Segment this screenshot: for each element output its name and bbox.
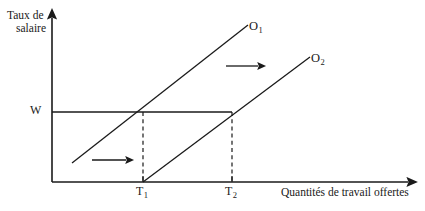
- diagram-canvas: [0, 0, 425, 211]
- curve-label-o2-base: O: [311, 51, 320, 65]
- x-tick-label-t2: T2: [225, 185, 237, 198]
- curve-label-o2: O2: [311, 51, 325, 65]
- y-axis-title-line-1: Taux de: [7, 9, 44, 21]
- supply-curve-o2: [143, 57, 310, 182]
- curve-label-o1: O1: [249, 19, 263, 33]
- x-tick-label-t1: T1: [136, 185, 148, 198]
- x-tick-label-t1-subscript: 1: [143, 190, 148, 200]
- curve-label-o1-base: O: [249, 19, 258, 33]
- y-axis-title: Taux de salaire: [7, 9, 46, 35]
- curve-label-o1-subscript: 1: [258, 25, 263, 35]
- labor-supply-shift-diagram: Taux de salaire Quantités de travail off…: [0, 0, 425, 211]
- y-axis-title-line-2: salaire: [7, 22, 46, 35]
- curve-label-o2-subscript: 2: [320, 57, 325, 67]
- x-tick-label-t2-subscript: 2: [232, 190, 237, 200]
- x-axis-title: Quantités de travail offertes: [281, 186, 409, 199]
- y-tick-label-w: W: [30, 104, 41, 117]
- supply-curve-o1: [72, 25, 248, 163]
- y-tick-label-w-base: W: [30, 103, 41, 117]
